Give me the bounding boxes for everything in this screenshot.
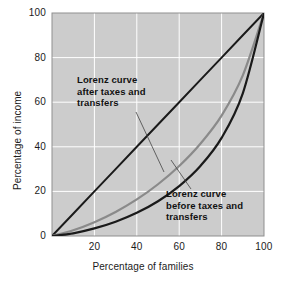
annotation-after-line-2: after taxes and <box>77 86 146 98</box>
y-axis-title: Percentage of income <box>12 91 23 190</box>
y-tick-0: 0 <box>20 230 46 241</box>
annotation-before-line-1: Lorenz curve <box>166 188 243 200</box>
annotation-before-taxes: Lorenz curve before taxes and transfers <box>166 188 243 223</box>
x-tick-100: 100 <box>250 241 278 252</box>
annotation-before-line-2: before taxes and <box>166 200 243 212</box>
y-tick-40: 40 <box>20 141 46 152</box>
y-tick-80: 80 <box>20 52 46 63</box>
x-tick-20: 20 <box>80 241 108 252</box>
annotation-before-line-3: transfers <box>166 211 243 223</box>
y-tick-20: 20 <box>20 185 46 196</box>
annotation-after-line-3: transfers <box>77 97 146 109</box>
y-tick-100: 100 <box>20 7 46 18</box>
x-tick-60: 60 <box>165 241 193 252</box>
lorenz-curve-chart: 100 80 60 40 20 0 20 40 60 80 100 Percen… <box>0 0 286 284</box>
x-tick-40: 40 <box>123 241 151 252</box>
annotation-after-taxes: Lorenz curve after taxes and transfers <box>77 74 146 109</box>
y-tick-60: 60 <box>20 96 46 107</box>
x-tick-80: 80 <box>208 241 236 252</box>
annotation-after-line-1: Lorenz curve <box>77 74 146 86</box>
x-axis-title: Percentage of families <box>0 261 286 272</box>
